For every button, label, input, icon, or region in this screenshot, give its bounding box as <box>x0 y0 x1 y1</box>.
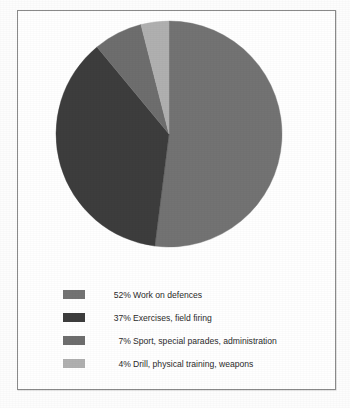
legend-item-work-on-defences: 52% Work on defences <box>63 283 328 306</box>
legend-percent-drill-physical-training-weapons: 4% <box>85 359 133 369</box>
legend-percent-sport-special-parades-administration: 7% <box>85 336 133 346</box>
pie-svg <box>55 20 283 248</box>
legend-label-exercises-field-firing: Exercises, field firing <box>133 313 212 323</box>
pie-chart-graphic <box>55 20 283 248</box>
pie-slice-group <box>56 21 282 247</box>
legend-swatch-sport-special-parades-administration <box>63 336 85 345</box>
legend-label-drill-physical-training-weapons: Drill, physical training, weapons <box>133 359 253 369</box>
pie-chart-figure: 52% Work on defences 37% Exercises, fiel… <box>0 0 350 408</box>
legend-label-sport-special-parades-administration: Sport, special parades, administration <box>133 336 277 346</box>
figure-frame-border: 52% Work on defences 37% Exercises, fiel… <box>17 10 336 390</box>
legend-label-work-on-defences: Work on defences <box>133 290 202 300</box>
legend-item-sport-special-parades-administration: 7% Sport, special parades, administratio… <box>63 329 328 352</box>
legend-swatch-drill-physical-training-weapons <box>63 359 85 368</box>
chart-legend: 52% Work on defences 37% Exercises, fiel… <box>63 283 328 375</box>
legend-swatch-work-on-defences <box>63 290 85 299</box>
legend-item-drill-physical-training-weapons: 4% Drill, physical training, weapons <box>63 352 328 375</box>
legend-percent-work-on-defences: 52% <box>85 290 133 300</box>
legend-swatch-exercises-field-firing <box>63 313 85 322</box>
pie-slice <box>155 21 282 247</box>
legend-percent-exercises-field-firing: 37% <box>85 313 133 323</box>
legend-item-exercises-field-firing: 37% Exercises, field firing <box>63 306 328 329</box>
